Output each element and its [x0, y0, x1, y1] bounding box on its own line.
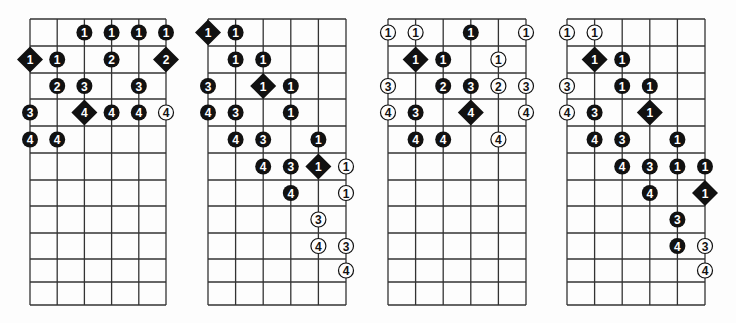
note-marker: 1	[76, 25, 92, 41]
finger-number: 3	[205, 80, 212, 94]
optional-note-marker: 3	[519, 79, 534, 94]
optional-note-marker: 2	[491, 79, 506, 94]
finger-number: 1	[702, 187, 709, 201]
note-marker: 4	[200, 105, 216, 121]
finger-number: 3	[81, 80, 88, 94]
finger-number: 1	[591, 53, 598, 67]
note-marker: 3	[642, 159, 658, 175]
finger-number: 3	[646, 160, 653, 174]
finger-number: 1	[564, 26, 571, 40]
root-note-marker: 1	[403, 47, 429, 73]
diagram-2: 11113114314314311413434	[195, 19, 354, 305]
finger-number: 1	[412, 26, 419, 40]
optional-note-marker: 1	[491, 52, 506, 67]
finger-number: 2	[108, 53, 115, 67]
finger-number: 3	[412, 106, 419, 120]
finger-number: 1	[343, 160, 350, 174]
optional-note-marker: 3	[698, 239, 713, 254]
finger-number: 3	[523, 80, 530, 94]
note-marker: 1	[669, 159, 685, 175]
note-marker: 4	[408, 132, 424, 148]
optional-note-marker: 1	[339, 159, 354, 174]
optional-note-marker: 3	[311, 212, 326, 227]
finger-number: 1	[674, 160, 681, 174]
note-marker: 3	[669, 212, 685, 228]
note-marker: 1	[283, 105, 299, 121]
finger-number: 4	[440, 133, 447, 147]
finger-number: 3	[135, 80, 142, 94]
root-note-marker: 1	[692, 180, 718, 206]
diagram-4: 11113114314314311413434	[560, 19, 719, 305]
optional-note-marker: 1	[381, 25, 396, 40]
finger-number: 3	[27, 106, 34, 120]
note-marker: 1	[158, 25, 174, 41]
note-marker: 4	[22, 132, 38, 148]
finger-number: 3	[619, 133, 626, 147]
finger-number: 1	[260, 80, 267, 94]
note-marker: 3	[131, 78, 147, 94]
finger-number: 2	[163, 53, 170, 67]
finger-number: 1	[205, 26, 212, 40]
finger-number: 1	[108, 26, 115, 40]
note-marker: 1	[642, 78, 658, 94]
finger-number: 1	[27, 53, 34, 67]
finger-number: 4	[385, 106, 392, 120]
finger-number: 1	[646, 80, 653, 94]
note-marker: 1	[697, 159, 713, 175]
root-note-marker: 2	[153, 47, 179, 73]
note-marker: 4	[131, 105, 147, 121]
diagram-canvas: 1111112223334444441111311431431431141343…	[0, 0, 736, 323]
finger-number: 1	[412, 53, 419, 67]
note-marker: 1	[463, 25, 479, 41]
diagram-1: 111111222333444444	[17, 19, 179, 305]
note-marker: 4	[587, 132, 603, 148]
note-marker: 1	[131, 25, 147, 41]
finger-number: 1	[163, 26, 170, 40]
finger-number: 2	[495, 80, 502, 94]
finger-number: 4	[135, 106, 142, 120]
optional-note-marker: 4	[339, 263, 354, 278]
finger-number: 4	[108, 106, 115, 120]
note-marker: 4	[642, 185, 658, 201]
note-marker: 3	[255, 132, 271, 148]
note-marker: 3	[587, 105, 603, 121]
note-marker: 1	[669, 132, 685, 148]
finger-number: 4	[315, 240, 322, 254]
finger-number: 1	[646, 106, 653, 120]
note-marker: 4	[669, 238, 685, 254]
optional-note-marker: 1	[560, 25, 575, 40]
optional-note-marker: 4	[381, 105, 396, 120]
note-marker: 1	[614, 78, 630, 94]
finger-number: 1	[495, 53, 502, 67]
note-marker: 2	[104, 52, 120, 68]
finger-number: 1	[619, 53, 626, 67]
finger-number: 1	[260, 53, 267, 67]
finger-number: 3	[591, 106, 598, 120]
finger-number: 1	[232, 26, 239, 40]
note-marker: 3	[463, 78, 479, 94]
finger-number: 3	[232, 106, 239, 120]
root-note-marker: 4	[71, 100, 97, 126]
finger-number: 4	[163, 106, 170, 120]
optional-note-marker: 4	[698, 263, 713, 278]
finger-number: 4	[287, 187, 294, 201]
finger-number: 4	[81, 106, 88, 120]
finger-number: 1	[81, 26, 88, 40]
finger-number: 4	[619, 160, 626, 174]
finger-number: 1	[343, 187, 350, 201]
finger-number: 3	[674, 213, 681, 227]
note-marker: 3	[22, 105, 38, 121]
note-marker: 1	[283, 78, 299, 94]
finger-number: 2	[440, 80, 447, 94]
note-marker: 2	[49, 78, 65, 94]
note-marker: 3	[76, 78, 92, 94]
finger-number: 1	[315, 133, 322, 147]
optional-note-marker: 1	[519, 25, 534, 40]
finger-number: 3	[702, 240, 709, 254]
finger-number: 3	[315, 213, 322, 227]
finger-number: 1	[135, 26, 142, 40]
fretboard-diagrams: 1111112223334444441111311431431431141343…	[0, 0, 736, 323]
note-marker: 1	[104, 25, 120, 41]
finger-number: 1	[287, 106, 294, 120]
root-note-marker: 1	[17, 47, 43, 73]
